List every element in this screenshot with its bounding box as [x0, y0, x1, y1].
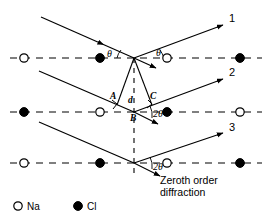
ray-3-label: 3 [229, 121, 235, 133]
atom-na [163, 54, 171, 62]
atom-cl [96, 159, 105, 168]
theta-reflected-label: θ [156, 47, 161, 58]
atom-cl [236, 159, 245, 168]
reflected-ray-3-line [134, 133, 223, 163]
diagram-canvas: 1 2 3 θ θ 2θ 2θ A d C B Zeroth order dif… [0, 0, 269, 222]
theta-incident-label: θ [107, 48, 112, 59]
atom-cl [236, 54, 245, 63]
atom-cl [20, 108, 29, 117]
incident-ray-3-line [39, 122, 134, 163]
spacing-d-label: d [128, 95, 133, 105]
atom-cl [96, 54, 105, 63]
bragg-diffraction-diagram: 1 2 3 θ θ 2θ 2θ A d C B Zeroth order dif… [0, 0, 269, 222]
legend-cl-icon [74, 202, 83, 211]
point-a-label: A [109, 91, 116, 101]
atom-na [236, 108, 244, 116]
right-angle-mark-A [112, 100, 117, 109]
ray-1-label: 1 [229, 12, 235, 24]
legend-cl-label: Cl [87, 201, 96, 212]
point-c-label: C [150, 91, 157, 101]
atom-na [20, 54, 28, 62]
zeroth-order-caption-line1: Zeroth order [160, 174, 218, 186]
point-b-label: B [129, 113, 136, 123]
angle-arc-two-theta-bottom [150, 157, 152, 169]
legend-na-label: Na [27, 201, 40, 212]
lattice-plane-lines [10, 58, 262, 163]
reflected-ray-2-line [134, 79, 223, 112]
atom-na [96, 108, 104, 116]
legend-na-icon [14, 202, 22, 210]
two-theta-middle-label: 2θ [153, 108, 163, 119]
atom-cl [163, 108, 172, 117]
atom-na [163, 159, 171, 167]
legend: Na Cl [14, 201, 97, 212]
reflected-ray-1-line [134, 25, 223, 58]
zeroth-order-caption-line2: diffraction [160, 186, 205, 198]
two-theta-bottom-label: 2θ [153, 161, 163, 172]
reflected-ray-3 [134, 133, 223, 163]
ray-2-label: 2 [229, 66, 235, 78]
reflected-ray-1 [134, 25, 223, 58]
incident-ray-3 [39, 122, 134, 163]
atom-na [20, 159, 28, 167]
incident-ray-2-line [39, 71, 134, 112]
angle-arc-two-theta-middle [150, 106, 152, 118]
reflected-ray-2 [134, 79, 223, 112]
incident-ray-2 [39, 71, 134, 112]
